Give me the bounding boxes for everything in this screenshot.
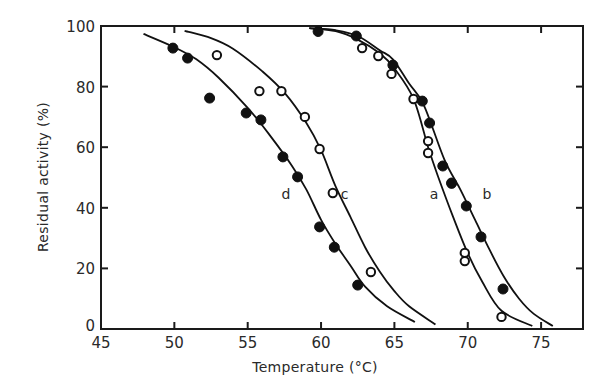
data-point-d xyxy=(293,172,303,182)
curve-label-c: c xyxy=(341,186,349,202)
curve-label-b: b xyxy=(482,186,491,202)
x-tick-label: 65 xyxy=(385,334,404,352)
data-point-a xyxy=(409,95,417,103)
data-point-c xyxy=(301,113,309,121)
data-point-c xyxy=(329,189,337,197)
data-point-d xyxy=(256,115,266,125)
x-tick-label: 70 xyxy=(458,334,477,352)
data-point-b xyxy=(476,232,486,242)
data-point-a xyxy=(424,149,432,157)
y-tick-label: 40 xyxy=(76,200,95,218)
curve-label-d: d xyxy=(281,186,290,202)
curve-c xyxy=(185,31,436,325)
data-point-d xyxy=(329,242,339,252)
x-axis-title: Temperature (°C) xyxy=(251,359,378,375)
y-tick-label: 80 xyxy=(76,79,95,97)
x-tick-label: 50 xyxy=(165,334,184,352)
data-point-a xyxy=(424,137,432,145)
data-point-d xyxy=(205,93,215,103)
data-point-a xyxy=(374,52,382,60)
y-tick-label: 100 xyxy=(66,18,95,36)
data-point-b xyxy=(461,201,471,211)
data-point-a xyxy=(358,44,366,52)
data-point-d xyxy=(353,280,363,290)
plot-frame xyxy=(101,26,583,329)
data-point-a xyxy=(461,257,469,265)
data-point-a xyxy=(497,313,505,321)
curve-label-a: a xyxy=(430,186,439,202)
data-point-d xyxy=(168,43,178,53)
data-point-b xyxy=(498,284,508,294)
x-tick-label: 75 xyxy=(532,334,551,352)
x-tick-label: 55 xyxy=(238,334,257,352)
data-point-d xyxy=(278,152,288,162)
x-tick-label: 60 xyxy=(312,334,331,352)
data-point-c xyxy=(367,268,375,276)
data-point-b xyxy=(438,161,448,171)
y-tick-label: 20 xyxy=(76,260,95,278)
x-tick-label: 45 xyxy=(91,334,110,352)
axis-ticks: 45505560657075020406080100 xyxy=(66,18,583,352)
y-tick-label: 0 xyxy=(85,317,95,335)
curve-a xyxy=(309,28,532,326)
data-point-b xyxy=(313,27,323,37)
y-axis-title: Residual activity (%) xyxy=(35,102,51,252)
data-point-c xyxy=(255,87,263,95)
residual-activity-chart: 45505560657075020406080100 abcd Temperat… xyxy=(0,0,616,392)
data-point-b xyxy=(351,31,361,41)
y-tick-label: 60 xyxy=(76,139,95,157)
curve-b xyxy=(309,28,553,326)
data-point-d xyxy=(183,53,193,63)
data-point-a xyxy=(461,249,469,257)
data-point-b xyxy=(447,178,457,188)
data-point-d xyxy=(241,108,251,118)
data-point-c xyxy=(277,87,285,95)
data-point-b xyxy=(425,118,435,128)
plot-border xyxy=(101,26,583,329)
data-points xyxy=(168,27,508,322)
curve-d xyxy=(144,34,415,322)
data-point-c xyxy=(213,51,221,59)
data-point-c xyxy=(315,145,323,153)
fitted-curves xyxy=(144,28,553,326)
data-point-a xyxy=(387,70,395,78)
data-point-d xyxy=(315,222,325,232)
data-point-b xyxy=(388,60,398,70)
data-point-b xyxy=(417,96,427,106)
